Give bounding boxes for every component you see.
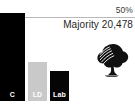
election-bar-chart: 50% Majority 20,478 C LD Lab xyxy=(0,0,135,107)
majority-threshold-line xyxy=(11,17,135,18)
bar-ld: LD xyxy=(28,62,47,101)
bar-lab: Lab xyxy=(50,71,69,101)
bar-label-c: C xyxy=(0,91,25,99)
bar-label-ld: LD xyxy=(28,91,47,99)
oak-tree-icon xyxy=(92,42,132,80)
bar-label-lab: Lab xyxy=(50,91,69,99)
majority-value-label: Majority 20,478 xyxy=(63,19,133,31)
bar-c: C xyxy=(0,13,25,101)
threshold-percent-label: 50% xyxy=(116,5,133,15)
